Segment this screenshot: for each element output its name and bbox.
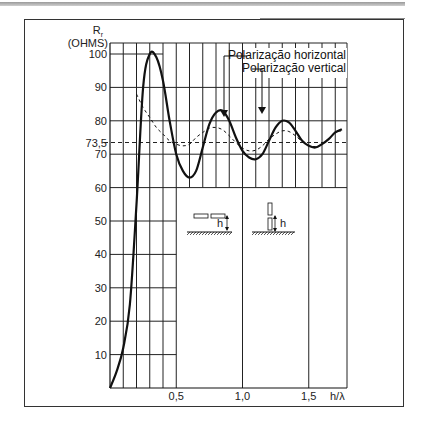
series-lines [110, 52, 342, 388]
inset-h-label: h [217, 217, 223, 229]
y-tick-label: 20 [95, 315, 107, 327]
arrow-down-icon [273, 228, 277, 232]
y-tick-label: 10 [95, 349, 107, 361]
y-tick-labels: 1020304050607073,58090100 [86, 48, 107, 361]
arrow-up-icon [225, 215, 229, 219]
series-horizontal-polarization [110, 52, 342, 388]
y-tick-label: 73,5 [86, 137, 107, 149]
y-tick-label: 30 [95, 282, 107, 294]
y-tick-label: 90 [95, 81, 107, 93]
x-tick-label: 1,0 [235, 390, 250, 402]
y-tick-label: 50 [95, 215, 107, 227]
arrow-up-icon [273, 215, 277, 219]
arrow-down-icon [225, 227, 229, 231]
x-tick-label: 1,5 [301, 390, 316, 402]
inset-vertical-dipole: h [252, 203, 295, 235]
x-axis-label: h/λ [330, 390, 345, 402]
legend-horizontal-label: Polarização horizontal [228, 48, 346, 62]
inset-h-label: h [280, 217, 286, 229]
y-axis-symbol: Rr [93, 24, 104, 38]
y-tick-label: 70 [95, 148, 107, 160]
dipole-element-left [194, 214, 208, 218]
x-tick-labels: 0,51,01,5 [169, 390, 317, 402]
dipole-element-top [268, 203, 272, 215]
y-axis-unit: (OHMS) [68, 37, 108, 49]
grid [110, 43, 347, 388]
radiation-resistance-chart: 1020304050607073,58090100 0,51,01,5 Rr (… [0, 0, 423, 428]
axes [110, 43, 347, 388]
y-tick-label: 100 [89, 48, 107, 60]
legend: Polarização horizontal Polarização verti… [220, 48, 347, 117]
inset-horizontal-dipole: h [187, 214, 232, 235]
y-tick-label: 80 [95, 115, 107, 127]
y-tick-label: 40 [95, 248, 107, 260]
legend-vertical-label: Polarização vertical [242, 61, 346, 75]
y-tick-label: 60 [95, 182, 107, 194]
legend-vertical-arrow [258, 107, 266, 114]
dipole-element-bottom [268, 218, 272, 230]
x-tick-label: 0,5 [169, 390, 184, 402]
